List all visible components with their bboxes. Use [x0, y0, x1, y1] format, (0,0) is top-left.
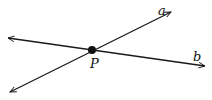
- line-a-label: a: [158, 3, 166, 18]
- diagram-canvas: a b P: [0, 0, 212, 100]
- point-p-label: P: [89, 56, 99, 71]
- intersecting-lines-figure: a b P: [0, 0, 212, 100]
- line-b: [8, 38, 205, 66]
- line-b-label: b: [193, 49, 201, 64]
- point-p-dot: [88, 46, 96, 54]
